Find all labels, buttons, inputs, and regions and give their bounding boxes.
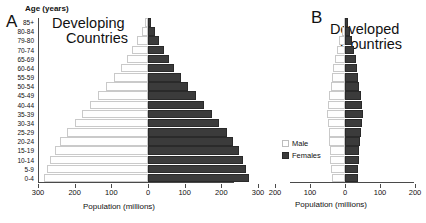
bar-female: [345, 64, 357, 73]
bar-male: [50, 156, 148, 165]
x-tick-label: 100: [304, 188, 317, 197]
bar-female: [345, 18, 348, 27]
age-group-row: [290, 82, 414, 91]
age-group-row: [38, 55, 234, 64]
bar-male: [55, 146, 149, 155]
x-tick-label: 200: [215, 188, 228, 197]
age-group-row: [38, 73, 234, 82]
legend-swatch-female-icon: [282, 152, 289, 159]
bar-female: [148, 128, 227, 137]
x-tick-label: 0: [146, 188, 150, 197]
bar-male: [67, 128, 148, 137]
age-group-row: [38, 174, 234, 183]
age-group-row: [290, 27, 414, 36]
bar-male: [98, 91, 148, 100]
age-group-row: [290, 119, 414, 128]
bar-male: [328, 101, 346, 110]
bar-male: [127, 55, 148, 64]
bar-male: [90, 101, 148, 110]
bar-female: [148, 64, 174, 73]
bar-male: [335, 55, 345, 64]
x-tick-label: 200: [269, 188, 282, 197]
age-group-row: [290, 165, 414, 174]
age-group-row: [290, 101, 414, 110]
age-group-label: 15-19: [17, 147, 34, 154]
age-group-label: 10-14: [17, 157, 34, 164]
legend-label-male: Male: [292, 139, 308, 148]
bar-male: [329, 91, 345, 100]
y-axis-title: Age (years): [25, 4, 69, 13]
legend-label-female: Females: [292, 151, 321, 160]
age-group-row: [38, 110, 234, 119]
bar-female: [148, 174, 249, 183]
x-tick-label: 200: [409, 188, 422, 197]
bar-female: [345, 73, 358, 82]
bar-male: [60, 137, 148, 146]
bar-female: [148, 91, 196, 100]
age-group-row: [38, 36, 234, 45]
bar-male: [132, 46, 148, 55]
age-group-row: [38, 119, 234, 128]
age-group-row: [38, 137, 234, 146]
bar-female: [148, 73, 181, 82]
bar-male: [137, 36, 148, 45]
age-group-row: [38, 101, 234, 110]
bar-female: [148, 55, 169, 64]
bar-female: [148, 46, 164, 55]
bar-male: [75, 119, 148, 128]
bar-female: [345, 27, 350, 36]
bar-male: [331, 165, 345, 174]
bar-male: [47, 165, 148, 174]
age-group-row: [38, 27, 234, 36]
panel-a: A Age (years) Developing Countries 0-45-…: [0, 0, 255, 223]
age-group-row: [290, 110, 414, 119]
age-group-row: [290, 128, 414, 137]
age-group-row: [38, 91, 234, 100]
panel-a-bars: [38, 18, 234, 183]
age-group-label: 5-9: [25, 166, 34, 173]
age-group-row: [38, 146, 234, 155]
age-group-label: 30-34: [17, 120, 34, 127]
bar-female: [148, 119, 219, 128]
bar-female: [148, 27, 155, 36]
bar-female: [148, 18, 151, 27]
age-group-label: 79-80: [17, 37, 34, 44]
bar-male: [330, 156, 345, 165]
bar-male: [329, 128, 345, 137]
bar-female: [345, 91, 361, 100]
age-group-label: 85+: [23, 19, 34, 26]
bar-male: [331, 82, 345, 91]
age-group-row: [290, 55, 414, 64]
bar-male: [328, 119, 346, 128]
age-group-row: [38, 64, 234, 73]
bar-male: [337, 46, 345, 55]
age-group-label: 60-64: [17, 65, 34, 72]
age-group-label: 35-39: [17, 111, 34, 118]
age-group-label: 80-84: [17, 28, 34, 35]
panel-b-x-ticks: 2001000100200: [290, 184, 414, 198]
age-group-row: [290, 91, 414, 100]
legend-swatch-male-icon: [282, 140, 289, 147]
bar-male: [114, 73, 148, 82]
age-group-label: 25-29: [17, 129, 34, 136]
bar-female: [345, 110, 363, 119]
bar-female: [345, 101, 362, 110]
bar-male: [121, 64, 148, 73]
bar-female: [345, 174, 358, 183]
x-tick-label: 100: [105, 188, 118, 197]
age-group-row: [290, 18, 414, 27]
age-group-row: [38, 165, 234, 174]
age-group-row: [290, 174, 414, 183]
age-group-label: 20-24: [17, 138, 34, 145]
x-tick-label: 200: [68, 188, 81, 197]
bar-female: [345, 156, 359, 165]
bar-female: [148, 137, 233, 146]
panel-a-plot: [38, 18, 234, 183]
age-group-row: [290, 137, 414, 146]
age-group-label: 55-59: [17, 74, 34, 81]
age-group-row: [38, 156, 234, 165]
bar-male: [330, 146, 345, 155]
bar-female: [345, 55, 356, 64]
bar-female: [345, 146, 359, 155]
panel-a-x-axis-title: Population (millions): [83, 202, 155, 211]
